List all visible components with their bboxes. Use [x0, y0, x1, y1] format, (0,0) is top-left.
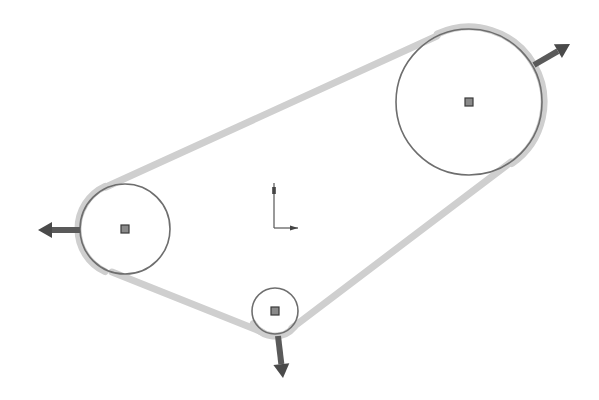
center-point-icon[interactable]	[121, 225, 129, 233]
belt-pulley-diagram	[0, 0, 599, 400]
y-axis-tip	[272, 187, 276, 194]
center-point-icon[interactable]	[465, 98, 473, 106]
arrow-shaft	[52, 227, 80, 233]
center-point-icon[interactable]	[271, 307, 279, 315]
